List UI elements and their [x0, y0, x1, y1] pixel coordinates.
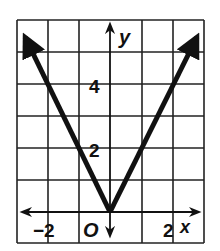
x-tick-label-2: 2 [163, 220, 174, 241]
x-axis-label: x [179, 217, 191, 237]
y-axis-label: y [118, 26, 131, 48]
function-curve [25, 37, 197, 212]
absolute-value-graph: y 4 2 −2 O 2 x [0, 0, 220, 251]
y-tick-label-4: 4 [89, 76, 100, 97]
y-tick-label-2: 2 [89, 140, 100, 161]
origin-label: O [83, 219, 99, 241]
x-tick-label-neg2: −2 [33, 220, 55, 241]
